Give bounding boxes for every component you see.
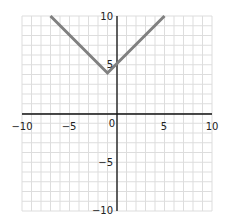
x-tick-label: −5 xyxy=(62,121,77,132)
chart: −10 −5 0 5 10 10 5 −5 −10 xyxy=(0,0,227,220)
y-tick-label: 10 xyxy=(100,11,113,22)
x-tick-label: 0 xyxy=(109,118,115,129)
y-tick-label: 5 xyxy=(107,59,113,70)
x-tick-label: 10 xyxy=(206,121,219,132)
y-tick-label: −10 xyxy=(92,205,113,216)
y-tick-label: −5 xyxy=(98,157,113,168)
x-tick-label: −10 xyxy=(11,121,32,132)
x-tick-label: 5 xyxy=(161,121,167,132)
